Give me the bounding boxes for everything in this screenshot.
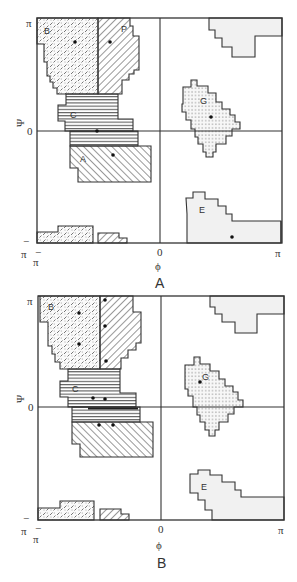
x-tick-max: π xyxy=(278,524,284,536)
label-region-g: G xyxy=(202,372,209,382)
label-region-e: E xyxy=(201,482,207,492)
x-axis-label: ϕ xyxy=(155,260,161,272)
region-e-top xyxy=(210,296,284,333)
label-region-a: A xyxy=(80,154,86,164)
region-c-lower xyxy=(70,131,138,146)
region-a xyxy=(70,146,151,182)
region-p-top xyxy=(100,296,141,369)
panel-caption-b: B xyxy=(157,555,166,571)
region-p-bottom xyxy=(98,233,127,243)
panel-b: B C G E π 0 − π − π 0 π Ψ ϕ B xyxy=(14,295,284,571)
panel-caption-a: A xyxy=(155,275,165,291)
x-tick-min: π xyxy=(33,533,39,545)
y-tick-min-sign: − xyxy=(23,235,29,247)
y-tick-min: π xyxy=(21,248,27,260)
label-region-c: C xyxy=(70,110,77,120)
x-tick-zero: 0 xyxy=(157,246,163,258)
x-tick-min: π xyxy=(33,256,39,268)
y-tick-max: π xyxy=(27,295,33,307)
region-e-top xyxy=(209,18,282,57)
region-p-top xyxy=(98,18,139,94)
label-region-p: P xyxy=(121,24,127,34)
region-e-bottom xyxy=(186,192,281,243)
region-b-bottom xyxy=(37,226,93,243)
x-tick-max: π xyxy=(275,247,281,259)
label-region-c: C xyxy=(72,384,79,394)
label-region-b: B xyxy=(44,26,50,36)
ramachandran-figure: B P C A G E π 0 − π − π 0 π Ψ ϕ A xyxy=(0,0,297,582)
label-region-e: E xyxy=(199,205,205,215)
region-e-bottom xyxy=(190,470,284,520)
y-tick-min-sign: − xyxy=(23,512,29,524)
x-tick-zero: 0 xyxy=(158,523,164,535)
y-tick-zero: 0 xyxy=(28,401,34,413)
x-axis-label: ϕ xyxy=(156,539,162,551)
panel-a: B P C A G E π 0 − π − π 0 π Ψ ϕ A xyxy=(14,17,282,291)
y-tick-min: π xyxy=(21,525,27,537)
y-axis-label: Ψ xyxy=(14,394,26,403)
region-p-bottom xyxy=(100,509,129,520)
region-g xyxy=(185,357,243,436)
y-tick-max: π xyxy=(26,17,32,29)
region-b-bottom xyxy=(38,501,94,520)
label-region-b: B xyxy=(48,302,54,312)
label-region-g: G xyxy=(200,96,207,106)
y-axis-label: Ψ xyxy=(14,118,26,127)
y-tick-zero: 0 xyxy=(27,125,33,137)
region-a xyxy=(72,422,153,457)
